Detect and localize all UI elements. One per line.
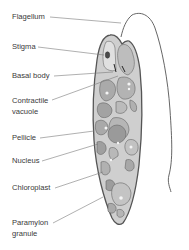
label-paramylon-granule-line1: Paramylon: [12, 218, 48, 228]
nucleus: [108, 125, 126, 143]
label-flagellum: Flagellum: [12, 12, 45, 22]
stigma-eyespot: [105, 52, 109, 58]
label-chloroplast: Chloroplast: [12, 183, 50, 193]
label-paramylon-granule-line2: granule: [12, 229, 37, 239]
label-basal-body: Basal body: [12, 71, 50, 81]
label-contractile-vacuole-line2: vacuole: [12, 107, 38, 117]
label-stigma: Stigma: [12, 42, 36, 52]
label-pellicle: Pellicle: [12, 133, 36, 143]
euglena-diagram: Flagellum Stigma Basal body Contractile …: [0, 0, 189, 250]
label-contractile-vacuole-line1: Contractile: [12, 96, 48, 106]
label-nucleus: Nucleus: [12, 156, 39, 166]
euglena-illustration: [0, 0, 189, 250]
